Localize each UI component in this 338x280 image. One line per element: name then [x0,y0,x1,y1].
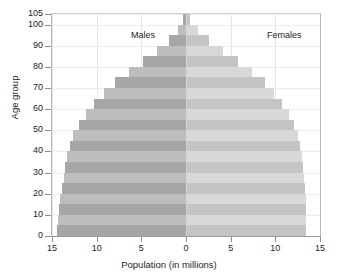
bar-male [115,77,186,88]
bar-male [169,35,186,46]
bar-female [186,204,306,215]
bar-female [186,173,304,184]
bar-female [186,67,252,78]
bar-male [86,109,186,120]
y-tick [45,215,51,216]
y-tick [45,130,51,131]
bar-male [65,162,186,173]
x-tick-label: 5 [129,243,153,253]
bar-male [94,99,186,110]
x-tick [52,237,53,242]
bar-female [186,141,300,152]
y-tick-label: 80 [13,61,43,71]
y-tick [45,14,51,15]
bar-female [186,120,294,131]
y-tick-label: 0 [13,230,43,240]
bar-male [70,141,186,152]
gridline-vertical [320,14,321,236]
bar-female [186,130,298,141]
bar-female [186,183,305,194]
bar-male [67,151,186,162]
x-tick-label: 15 [308,243,332,253]
x-axis-title: Population (in millions) [0,259,338,270]
bar-male [157,46,186,57]
y-tick [45,88,51,89]
bar-male [104,88,186,99]
bar-female [186,88,274,99]
y-tick [45,109,51,110]
y-tick [45,46,51,47]
y-tick-label: 40 [13,145,43,155]
bar-female [186,56,238,67]
y-tick-label: 60 [13,103,43,113]
bar-male [178,25,186,36]
bar-female [186,109,289,120]
bar-female [186,77,265,88]
bar-male [143,56,186,67]
plot-area: Males Females [51,13,321,237]
y-tick [45,194,51,195]
y-tick-label: 100 [13,19,43,29]
population-pyramid-figure: Age group Males Females 0102030405060708… [0,0,338,280]
zero-axis-line [186,14,187,236]
bar-female [186,215,306,226]
y-tick-label: 50 [13,124,43,134]
series-label-males: Males [131,30,155,40]
y-tick-label: 70 [13,82,43,92]
x-tick-label: 10 [263,243,287,253]
x-tick-label: 10 [85,243,109,253]
bar-female [186,194,306,205]
x-tick-label: 0 [174,243,198,253]
x-tick-label: 5 [219,243,243,253]
bar-male [60,194,186,205]
y-tick [45,236,51,237]
x-tick [97,237,98,242]
bar-male [79,120,186,131]
bar-male [62,183,186,194]
bar-male [59,204,186,215]
bar-female [186,25,198,36]
series-label-females: Females [267,30,302,40]
bar-female [186,46,223,57]
x-tick [275,237,276,242]
bar-male [57,225,186,236]
bar-female [186,225,306,236]
x-tick [141,237,142,242]
bar-female [186,162,303,173]
x-tick [231,237,232,242]
bar-male [129,67,186,78]
y-tick [45,173,51,174]
bar-male [64,173,186,184]
y-tick-label: 10 [13,209,43,219]
bar-female [186,35,209,46]
y-tick [45,25,51,26]
y-tick-label: 20 [13,188,43,198]
y-tick [45,151,51,152]
y-tick [45,67,51,68]
bar-male [73,130,186,141]
y-tick-label: 105 [13,8,43,18]
x-tick [320,237,321,242]
x-tick [186,237,187,242]
bar-female [186,99,282,110]
bar-female [186,151,302,162]
y-tick-label: 30 [13,167,43,177]
bar-male [58,215,186,226]
y-tick-label: 90 [13,40,43,50]
x-tick-label: 15 [40,243,64,253]
